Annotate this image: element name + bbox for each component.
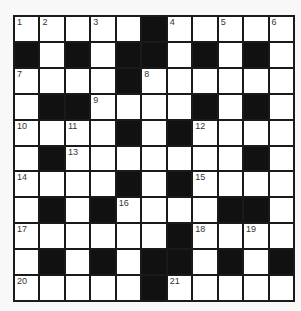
grid-cell[interactable] <box>270 276 293 300</box>
grid-cell[interactable] <box>270 121 293 145</box>
grid-cell[interactable]: 13 <box>66 147 89 171</box>
grid-cell[interactable] <box>117 276 140 300</box>
clue-number: 18 <box>195 224 205 235</box>
grid-cell[interactable] <box>142 224 165 248</box>
grid-cell[interactable]: 8 <box>142 69 165 93</box>
grid-cell[interactable] <box>219 224 242 248</box>
grid-cell[interactable]: 16 <box>117 198 140 222</box>
grid-cell[interactable] <box>91 69 114 93</box>
grid-cell[interactable] <box>193 276 216 300</box>
grid-cell[interactable]: 1 <box>15 17 38 41</box>
grid-cell[interactable]: 3 <box>91 17 114 41</box>
grid-cell[interactable] <box>244 250 267 274</box>
grid-cell[interactable] <box>117 224 140 248</box>
grid-cell[interactable] <box>142 198 165 222</box>
black-square <box>142 17 165 41</box>
grid-cell[interactable] <box>270 172 293 196</box>
grid-cell[interactable] <box>168 43 191 67</box>
grid-cell[interactable]: 7 <box>15 69 38 93</box>
grid-cell[interactable] <box>244 17 267 41</box>
grid-cell[interactable]: 17 <box>15 224 38 248</box>
clue-number: 5 <box>221 17 226 28</box>
grid-cell[interactable] <box>219 69 242 93</box>
grid-cell[interactable] <box>91 276 114 300</box>
grid-cell[interactable] <box>270 43 293 67</box>
grid-cell[interactable]: 11 <box>66 121 89 145</box>
grid-cell[interactable] <box>15 147 38 171</box>
grid-cell[interactable] <box>193 69 216 93</box>
grid-cell[interactable] <box>219 276 242 300</box>
grid-cell[interactable] <box>40 69 63 93</box>
grid-cell[interactable]: 6 <box>270 17 293 41</box>
grid-cell[interactable] <box>40 224 63 248</box>
grid-cell[interactable] <box>219 172 242 196</box>
grid-cell[interactable] <box>168 198 191 222</box>
grid-cell[interactable] <box>40 121 63 145</box>
grid-cell[interactable] <box>66 172 89 196</box>
grid-cell[interactable] <box>219 121 242 145</box>
grid-cell[interactable] <box>270 224 293 248</box>
grid-cell[interactable] <box>40 172 63 196</box>
grid-cell[interactable] <box>270 147 293 171</box>
grid-cell[interactable]: 5 <box>219 17 242 41</box>
grid-cell[interactable] <box>219 147 242 171</box>
grid-cell[interactable]: 21 <box>168 276 191 300</box>
grid-cell[interactable]: 19 <box>244 224 267 248</box>
grid-cell[interactable] <box>142 147 165 171</box>
grid-cell[interactable] <box>66 276 89 300</box>
grid-cell[interactable] <box>15 95 38 119</box>
grid-cell[interactable] <box>270 198 293 222</box>
black-square <box>168 121 191 145</box>
clue-number: 6 <box>272 17 277 28</box>
clue-number: 21 <box>170 276 180 287</box>
grid-cell[interactable] <box>219 43 242 67</box>
grid-cell[interactable] <box>117 147 140 171</box>
grid-cell[interactable]: 14 <box>15 172 38 196</box>
grid-cell[interactable] <box>15 198 38 222</box>
grid-cell[interactable]: 18 <box>193 224 216 248</box>
grid-cell[interactable] <box>91 224 114 248</box>
grid-cell[interactable] <box>117 17 140 41</box>
clue-number: 19 <box>246 224 256 235</box>
grid-cell[interactable] <box>193 147 216 171</box>
grid-cell[interactable] <box>193 198 216 222</box>
grid-cell[interactable] <box>66 250 89 274</box>
grid-cell[interactable] <box>193 17 216 41</box>
grid-cell[interactable]: 4 <box>168 17 191 41</box>
grid-cell[interactable] <box>168 147 191 171</box>
grid-cell[interactable] <box>168 95 191 119</box>
grid-cell[interactable]: 9 <box>91 95 114 119</box>
grid-cell[interactable] <box>91 172 114 196</box>
grid-cell[interactable] <box>244 276 267 300</box>
grid-cell[interactable] <box>66 69 89 93</box>
grid-cell[interactable]: 2 <box>40 17 63 41</box>
grid-cell[interactable] <box>270 95 293 119</box>
grid-cell[interactable] <box>142 172 165 196</box>
grid-cell[interactable] <box>15 250 38 274</box>
grid-cell[interactable] <box>193 250 216 274</box>
grid-cell[interactable] <box>40 43 63 67</box>
grid-cell[interactable] <box>142 95 165 119</box>
black-square <box>193 43 216 67</box>
grid-cell[interactable] <box>66 198 89 222</box>
grid-cell[interactable]: 15 <box>193 172 216 196</box>
grid-cell[interactable] <box>117 95 140 119</box>
grid-cell[interactable] <box>117 250 140 274</box>
grid-cell[interactable] <box>91 121 114 145</box>
grid-cell[interactable] <box>244 172 267 196</box>
grid-cell[interactable]: 10 <box>15 121 38 145</box>
grid-cell[interactable]: 12 <box>193 121 216 145</box>
grid-cell[interactable] <box>40 276 63 300</box>
black-square <box>40 95 63 119</box>
grid-cell[interactable] <box>91 43 114 67</box>
grid-cell[interactable] <box>142 121 165 145</box>
grid-cell[interactable] <box>168 69 191 93</box>
grid-cell[interactable] <box>219 95 242 119</box>
grid-cell[interactable] <box>244 69 267 93</box>
grid-cell[interactable] <box>91 147 114 171</box>
grid-cell[interactable] <box>270 69 293 93</box>
grid-cell[interactable] <box>66 224 89 248</box>
grid-cell[interactable]: 20 <box>15 276 38 300</box>
grid-cell[interactable] <box>66 17 89 41</box>
grid-cell[interactable] <box>244 121 267 145</box>
